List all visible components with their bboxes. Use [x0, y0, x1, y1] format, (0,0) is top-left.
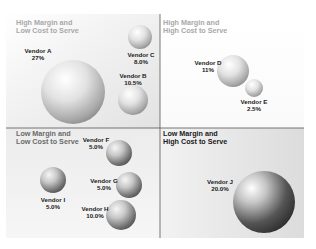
- vendor-name: Vendor E: [241, 98, 268, 105]
- vendor-value: 20.0%: [211, 185, 229, 192]
- vendor-value: 27%: [32, 54, 45, 61]
- bubble-vendor-d: [217, 55, 249, 87]
- bubble-vendor-c: [128, 25, 152, 49]
- vendor-name: Vendor I: [41, 196, 66, 203]
- bubble-vendor-i: [40, 167, 66, 193]
- bubble-vendor-h: [106, 200, 136, 230]
- bubble-vendor-f: [106, 140, 132, 166]
- quadrant-title-top-left: High Margin andLow Cost to Serve: [16, 18, 79, 35]
- vendor-name: Vendor J: [207, 178, 234, 185]
- vendor-name: Vendor H: [81, 205, 109, 212]
- vendor-value: 11%: [202, 66, 215, 73]
- vendor-value: 5.0%: [46, 203, 61, 210]
- vendor-name: Vendor D: [194, 59, 222, 66]
- vendor-value: 10.0%: [86, 212, 104, 219]
- vendor-name: Vendor B: [119, 72, 147, 79]
- quadrant-title-bottom-left: Low Margin andLow Cost to Serve: [16, 129, 79, 146]
- vendor-name: Vendor G: [90, 177, 118, 184]
- bubble-vendor-e: [245, 79, 263, 97]
- bubble-vendor-b: [118, 85, 148, 115]
- vendor-value: 5.0%: [97, 184, 112, 191]
- vendor-value: 10.5%: [124, 79, 142, 86]
- vendor-name: Vendor A: [25, 47, 52, 54]
- bubble-vendor-g: [116, 172, 142, 198]
- vendor-value: 2.5%: [247, 105, 262, 112]
- vendor-value: 5.0%: [89, 143, 104, 150]
- vendor-name: Vendor F: [83, 136, 110, 143]
- quadrant-title-top-right: High Margin andHigh Cost to Serve: [163, 18, 227, 35]
- bubble-vendor-j: [233, 171, 295, 233]
- vendor-value: 8.0%: [134, 58, 149, 65]
- vendor-name: Vendor C: [127, 51, 155, 58]
- quadrant-title-bottom-right: Low Margin andHigh Cost to Serve: [163, 129, 227, 146]
- bubble-quadrant-chart: High Margin andLow Cost to Serve High Ma…: [0, 0, 316, 249]
- bubble-vendor-a: [41, 60, 105, 124]
